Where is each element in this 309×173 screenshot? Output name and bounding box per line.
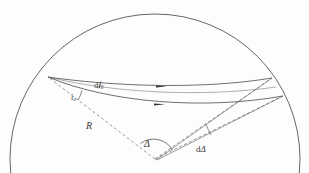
receiver-chord-lower (157, 96, 283, 160)
takeoff-reference-chord (48, 77, 276, 93)
figure-canvas (0, 0, 309, 173)
earth-surface-circle (10, 14, 300, 173)
label-ddelta-symbol: Δ (201, 144, 206, 154)
ray-direction-arrow-upper (156, 86, 167, 88)
ray-direction-arrow-lower (154, 103, 165, 105)
receiver-chord-upper (156, 78, 272, 160)
ray-path-upper (48, 77, 272, 86)
label-epicentral-distance-increment-ddelta: dΔ (196, 145, 206, 154)
label-epicentral-distance-delta: Δ (144, 139, 150, 149)
angle-arc-ddelta (206, 124, 211, 135)
label-di0-subscript: 0 (101, 84, 104, 90)
angle-arc-i0 (78, 91, 82, 101)
label-takeoff-angle-i0: i0 (71, 94, 76, 103)
seismic-ray-geometry-figure: i0 di0 R Δ dΔ (0, 0, 309, 173)
label-radius-R: R (86, 121, 92, 131)
label-i0-subscript: 0 (73, 97, 75, 102)
label-takeoff-angle-increment-di0: di0 (94, 81, 103, 90)
